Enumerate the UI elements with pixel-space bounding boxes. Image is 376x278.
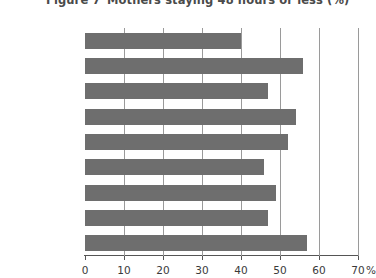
bar-row: West Midlands: [85, 185, 358, 201]
bar-row: Wales: [85, 235, 358, 251]
x-axis-tick: [124, 256, 125, 260]
x-axis-tick-label: 40: [234, 264, 247, 276]
bar-row: South West: [85, 159, 358, 175]
bar: [85, 210, 268, 226]
x-axis-tick-label: 70: [351, 264, 364, 276]
x-axis-line: [84, 255, 358, 256]
bar-row: South East: [85, 134, 358, 150]
bar: [85, 109, 296, 125]
bar: [85, 83, 268, 99]
x-axis-tick-label: 60: [312, 264, 325, 276]
plot-area: 010203040506070%NorthernYorks andHumbers…: [85, 28, 358, 256]
figure-number: Figure 7: [46, 0, 101, 7]
x-axis-tick: [85, 256, 86, 260]
bar: [85, 235, 307, 251]
bar: [85, 58, 303, 74]
plot-inner: 010203040506070%NorthernYorks andHumbers…: [85, 28, 358, 256]
page-title: Mothers staying 48 hours or less (%): [107, 0, 349, 7]
bar-row: Northern: [85, 33, 358, 49]
x-axis-tick: [202, 256, 203, 260]
x-axis-tick-label: 0: [82, 264, 89, 276]
x-axis-tick: [319, 256, 320, 260]
x-axis-tick-label: 10: [117, 264, 130, 276]
bar-row: East Midlands: [85, 83, 358, 99]
bar: [85, 134, 288, 150]
x-axis-tick-label: 30: [195, 264, 208, 276]
x-axis-tick: [358, 256, 359, 260]
x-axis-tick: [163, 256, 164, 260]
bar-row: Yorks andHumberside: [85, 58, 358, 74]
x-axis-tick: [241, 256, 242, 260]
bar: [85, 33, 241, 49]
figure-header: Figure 7 Mothers staying 48 hours or les…: [0, 0, 365, 11]
bar: [85, 159, 264, 175]
x-axis-tick-label: 20: [156, 264, 169, 276]
bar-row: East Anglia: [85, 109, 358, 125]
bar-row: North West: [85, 210, 358, 226]
bar: [85, 185, 276, 201]
x-axis-unit-label: %: [366, 264, 376, 276]
gridline: [358, 28, 359, 256]
x-axis-tick-label: 50: [273, 264, 286, 276]
x-axis-tick: [280, 256, 281, 260]
